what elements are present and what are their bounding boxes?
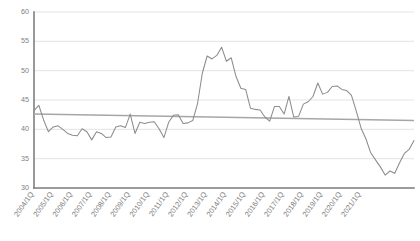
chart-canvas: 30354045505560 2004/1Q2005/1Q2006/1Q2007… xyxy=(0,0,420,241)
line-chart: 30354045505560 2004/1Q2005/1Q2006/1Q2007… xyxy=(0,0,420,241)
y-axis-tick-label: 55 xyxy=(21,36,29,45)
y-axis-tick-label: 35 xyxy=(21,154,29,163)
y-axis-tick-label: 50 xyxy=(21,66,29,75)
y-axis-tick-label: 40 xyxy=(21,124,29,133)
y-axis-tick-label: 60 xyxy=(21,7,29,16)
y-axis-tick-label: 45 xyxy=(21,95,29,104)
